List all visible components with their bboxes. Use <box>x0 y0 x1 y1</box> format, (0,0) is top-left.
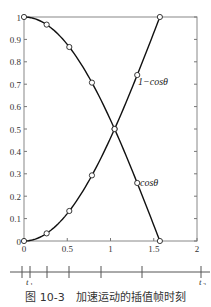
timeline-start-label: t <box>26 277 29 285</box>
data-marker <box>157 14 162 19</box>
data-marker <box>44 231 49 236</box>
data-marker <box>21 14 26 19</box>
x-tick-label: 1.5 <box>148 244 160 254</box>
y-tick-label: 0.9 <box>10 35 22 45</box>
y-tick-label: 0.7 <box>10 80 22 90</box>
one-minus-cos-curve <box>24 17 160 241</box>
data-marker <box>44 22 49 27</box>
y-tick-label: 0.5 <box>10 125 22 135</box>
data-marker <box>157 238 162 243</box>
label-one-minus-cos: 1−cosθ <box>138 76 168 87</box>
y-tick-label: 0.2 <box>10 192 21 202</box>
timeline-end-label: t <box>199 277 202 285</box>
x-tick-label: 0 <box>22 244 27 254</box>
y-tick-label: 0.3 <box>10 169 22 179</box>
x-tick-label: 0.5 <box>62 244 74 254</box>
data-marker <box>67 44 72 49</box>
data-marker <box>112 126 117 131</box>
data-marker <box>67 208 72 213</box>
timeline-end-sub: 2 <box>203 282 206 285</box>
label-cos: cosθ <box>140 177 158 188</box>
data-marker <box>89 80 94 85</box>
y-tick-label: 0.4 <box>10 147 22 157</box>
x-tick-label: 1 <box>108 244 113 254</box>
y-tick-label: 0.6 <box>10 102 22 112</box>
timeline-start-sub: 1 <box>30 282 33 285</box>
y-tick-label: 0.8 <box>10 57 22 67</box>
chart: 00.10.20.30.40.50.60.70.80.9100.511.521−… <box>0 0 211 285</box>
data-marker <box>21 238 26 243</box>
cos-curve <box>24 17 160 241</box>
data-marker <box>89 173 94 178</box>
y-tick-label: 0 <box>17 237 22 247</box>
plot-frame <box>24 17 197 241</box>
y-tick-label: 1 <box>17 13 22 23</box>
x-tick-label: 2 <box>195 244 200 254</box>
figure-caption: 图 10-3 加速运动的插值帧时刻 <box>0 288 211 304</box>
y-tick-label: 0.1 <box>10 214 21 224</box>
